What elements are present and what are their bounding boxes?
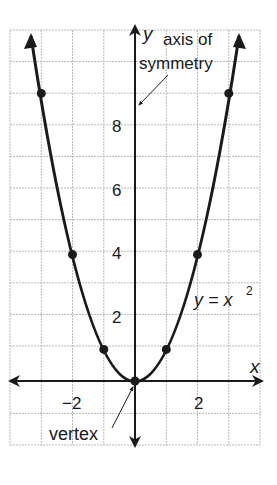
parabola-graph: y axis of symmetry 8 6 4 2 y = x 2 x −2 … xyxy=(0,0,277,485)
y-tick-6: 6 xyxy=(112,181,121,200)
y-tick-4: 4 xyxy=(112,244,121,263)
y-axis-label: y xyxy=(141,23,154,44)
axis-of-symmetry-label-2: symmetry xyxy=(139,54,213,73)
y-tick-2: 2 xyxy=(112,308,121,327)
axis-of-symmetry-pointer xyxy=(139,75,168,105)
equation-exponent: 2 xyxy=(246,284,253,298)
axis-of-symmetry-label: axis of xyxy=(163,30,212,49)
vertex-pointer xyxy=(112,387,133,428)
equation-label: y = x xyxy=(192,290,234,310)
x-tick-2: 2 xyxy=(194,394,203,413)
y-tick-8: 8 xyxy=(112,117,121,136)
curve-arrow-left xyxy=(24,33,37,49)
vertex-label: vertex xyxy=(49,424,98,444)
x-tick-neg2: −2 xyxy=(62,394,81,413)
x-axis-label: x xyxy=(249,356,261,377)
curve-arrow-right xyxy=(233,33,246,49)
